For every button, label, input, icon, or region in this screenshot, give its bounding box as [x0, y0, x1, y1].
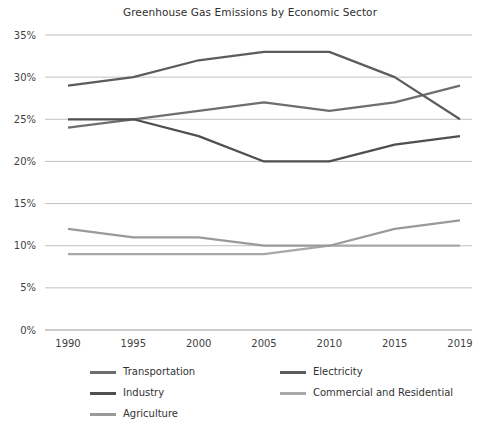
series-line: [68, 52, 460, 119]
line-chart-plot: 0%5%10%15%20%25%30%35% 19901995200020052…: [0, 0, 500, 360]
legend-item-label: Industry: [123, 388, 164, 398]
x-axis-tick-label: 2005: [251, 338, 276, 349]
series-line: [68, 246, 460, 254]
x-axis-tick-labels: 1990199520002005201020152019: [55, 338, 472, 349]
legend-color-swatch: [90, 371, 116, 374]
y-axis-tick-label: 35%: [14, 30, 36, 41]
y-axis-tick-label: 15%: [14, 198, 36, 209]
series-line: [68, 119, 460, 161]
legend-color-swatch: [90, 413, 116, 416]
legend-item-label: Transportation: [123, 367, 195, 377]
x-axis-tick-label: 1995: [121, 338, 146, 349]
legend-item[interactable]: Commercial and Residential: [280, 384, 453, 402]
y-axis-tick-label: 0%: [20, 325, 36, 336]
legend-item[interactable]: Transportation: [90, 363, 195, 381]
legend-item[interactable]: Agriculture: [90, 405, 178, 423]
y-axis-tick-label: 25%: [14, 114, 36, 125]
series-line: [68, 86, 460, 128]
x-axis-tick-label: 2019: [447, 338, 472, 349]
x-axis-tick-label: 2000: [186, 338, 211, 349]
legend-color-swatch: [90, 392, 116, 395]
chart-figure: Greenhouse Gas Emissions by Economic Sec…: [0, 0, 500, 429]
series-line: [68, 220, 460, 245]
legend-item[interactable]: Industry: [90, 384, 164, 402]
y-axis-tick-label: 5%: [20, 282, 36, 293]
y-axis-tick-label: 20%: [14, 156, 36, 167]
legend-color-swatch: [280, 371, 306, 374]
legend-item-label: Electricity: [313, 367, 363, 377]
legend-item-label: Commercial and Residential: [313, 388, 453, 398]
x-axis-tick-label: 2015: [382, 338, 407, 349]
y-axis-tick-label: 10%: [14, 240, 36, 251]
x-axis-tick-label: 1990: [55, 338, 80, 349]
legend-item-label: Agriculture: [123, 409, 178, 419]
y-axis-tick-labels: 0%5%10%15%20%25%30%35%: [14, 30, 36, 336]
chart-legend: TransportationElectricityIndustryCommerc…: [90, 360, 490, 426]
legend-color-swatch: [280, 392, 306, 395]
data-series-group: [68, 52, 460, 254]
legend-item[interactable]: Electricity: [280, 363, 363, 381]
y-axis-tick-label: 30%: [14, 72, 36, 83]
x-axis-tick-label: 2010: [317, 338, 342, 349]
